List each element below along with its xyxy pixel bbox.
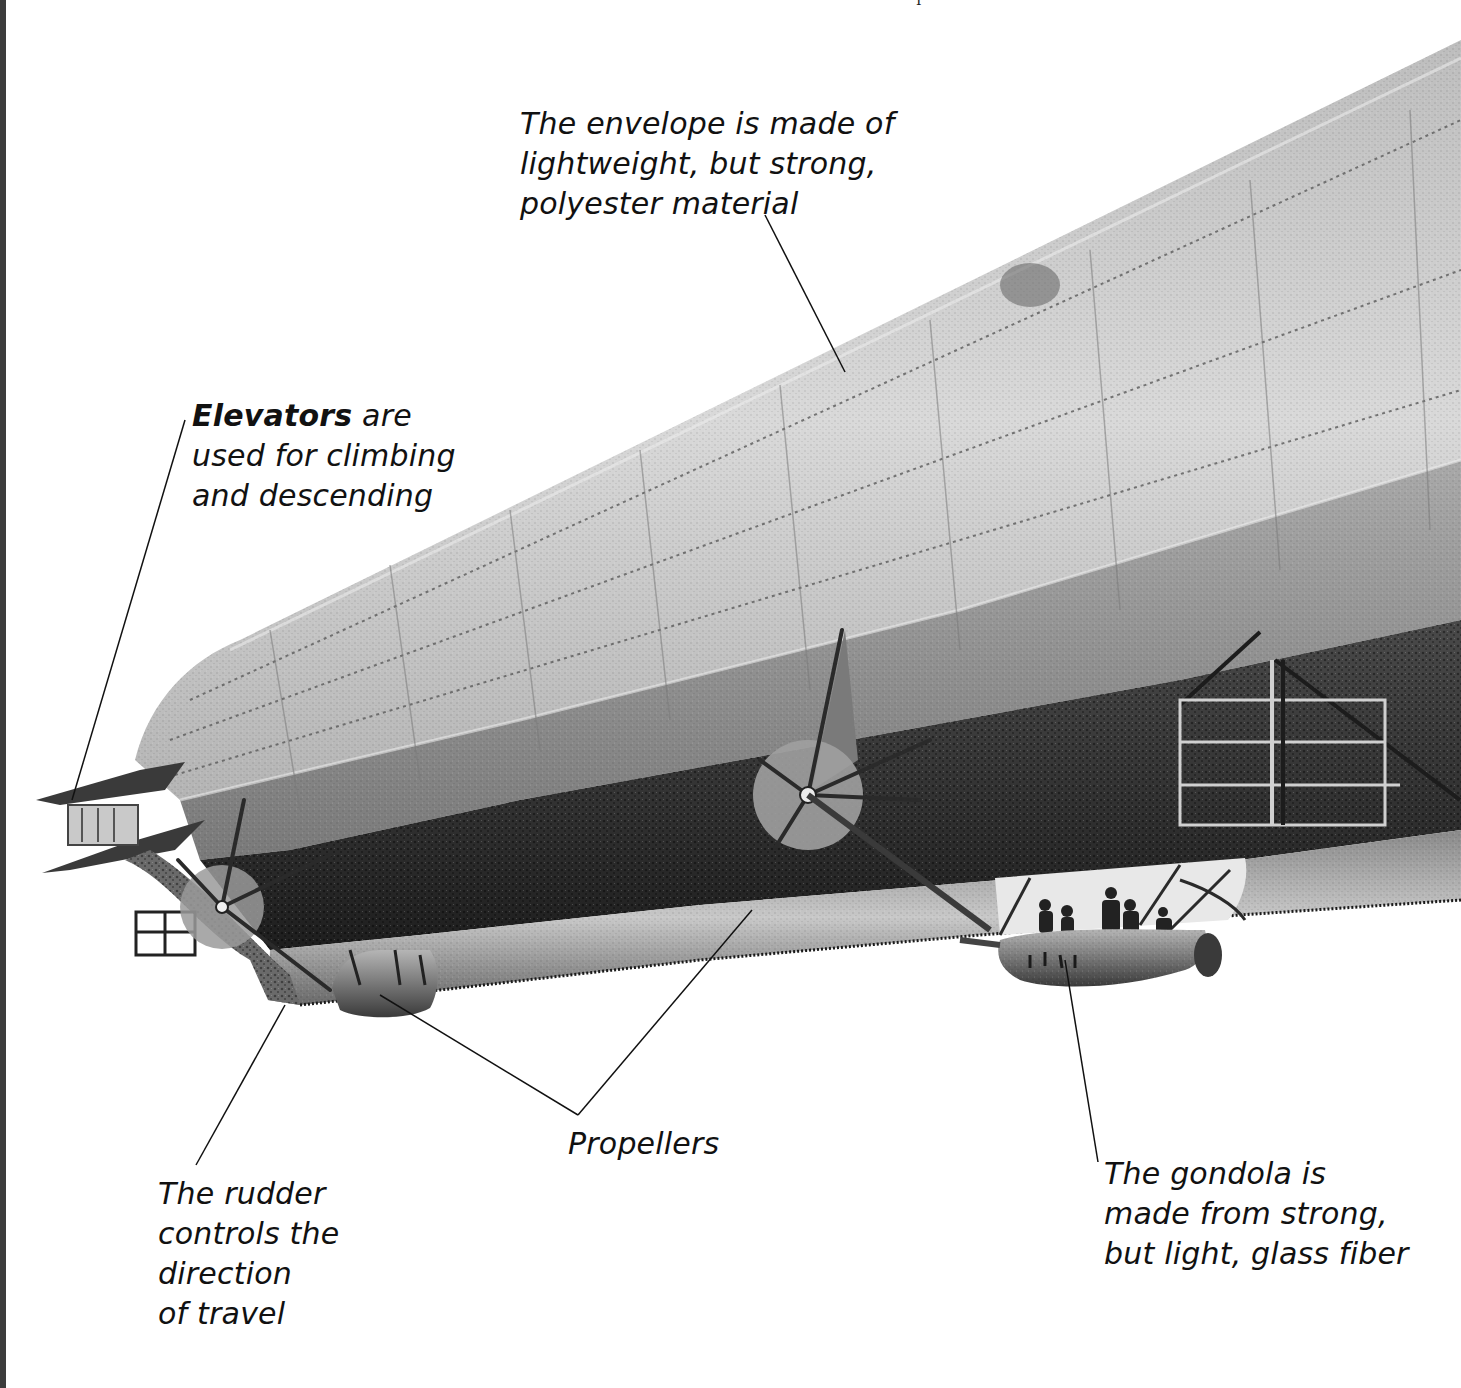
leader-envelope [765, 215, 845, 372]
label-elevators-line: used for climbing [192, 436, 456, 476]
leader-gondola [1065, 960, 1098, 1162]
label-elevators-rest: are [352, 398, 412, 433]
label-envelope-line: lightweight, but strong, [520, 144, 894, 184]
label-propellers: Propellers [568, 1124, 719, 1164]
cropped-text-fragment: I [916, 0, 924, 6]
label-elevators-term: Elevators [192, 398, 352, 433]
label-gondola: The gondola is made from strong, but lig… [1104, 1154, 1409, 1274]
label-envelope-line: The envelope is made of [520, 104, 894, 144]
label-propellers-text: Propellers [568, 1124, 719, 1164]
label-elevators: Elevators are used for climbing and desc… [192, 396, 456, 516]
label-elevators-line: and descending [192, 476, 456, 516]
label-rudder-line: The rudder [158, 1174, 339, 1214]
label-envelope: The envelope is made of lightweight, but… [520, 104, 894, 224]
leader-rudder [196, 1005, 285, 1165]
label-rudder-line: of travel [158, 1294, 339, 1334]
label-elevators-line: Elevators are [192, 396, 456, 436]
label-gondola-line: The gondola is [1104, 1154, 1409, 1194]
leader-propellers-rear [380, 995, 578, 1115]
label-rudder-line: controls the [158, 1214, 339, 1254]
airship-diagram: I The envelope is made of lightweight, b… [0, 0, 1461, 1388]
label-gondola-line: but light, glass fiber [1104, 1234, 1409, 1274]
label-rudder-line: direction [158, 1254, 339, 1294]
label-envelope-line: polyester material [520, 184, 894, 224]
label-gondola-line: made from strong, [1104, 1194, 1409, 1234]
label-rudder: The rudder controls the direction of tra… [158, 1174, 339, 1334]
